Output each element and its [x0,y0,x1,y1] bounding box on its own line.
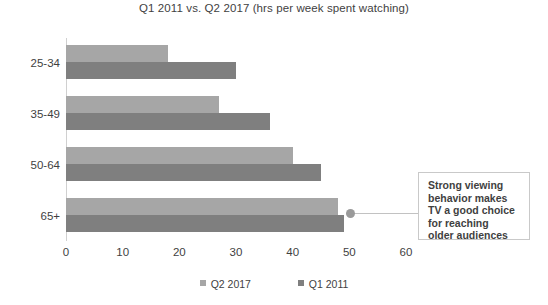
chart-legend: Q2 2017 Q1 2011 [0,277,548,290]
bar-q1-2011-65-plus[interactable] [66,215,344,232]
annotation-line-4: for reaching [428,217,522,230]
callout-anchor-dot [346,209,355,218]
x-tick-10: 10 [103,246,143,258]
bar-group-25-34 [66,45,406,79]
category-label-35-49: 35-49 [8,108,60,120]
legend-swatch-icon-q1-2011 [298,280,304,286]
bar-q1-2011-50-64[interactable] [66,164,321,181]
bar-q1-2011-25-34[interactable] [66,62,236,79]
annotation-line-2: behavior makes [428,192,522,205]
bar-q2-2017-65-plus[interactable] [66,198,338,215]
chart-title: Q1 2011 vs. Q2 2017 (hrs per week spent … [0,2,548,14]
bar-group-50-64 [66,147,406,181]
legend-swatch-icon-q2-2017 [200,280,206,286]
bar-q1-2011-35-49[interactable] [66,113,270,130]
bar-q2-2017-35-49[interactable] [66,96,219,113]
annotation-callout: Strong viewing behavior makes TV a good … [418,172,530,240]
bar-group-35-49 [66,96,406,130]
category-label-50-64: 50-64 [8,159,60,171]
legend-item-q2-2017[interactable]: Q2 2017 [200,277,251,290]
legend-label-q1-2011: Q1 2011 [309,278,349,290]
category-label-65-plus: 65+ [8,210,60,222]
annotation-line-1: Strong viewing [428,179,522,192]
legend-label-q2-2017: Q2 2017 [211,278,251,290]
category-label-25-34: 25-34 [8,57,60,69]
legend-item-q1-2011[interactable]: Q1 2011 [298,277,349,290]
bar-q2-2017-50-64[interactable] [66,147,293,164]
bar-q2-2017-25-34[interactable] [66,45,168,62]
x-tick-30: 30 [216,246,256,258]
callout-connector-line [353,213,419,214]
annotation-line-5: older audiences [428,229,522,242]
x-tick-0: 0 [46,246,86,258]
x-tick-40: 40 [273,246,313,258]
annotation-line-3: TV a good choice [428,204,522,217]
bar-group-65-plus [66,198,406,232]
x-tick-50: 50 [329,246,369,258]
chart-container: Q1 2011 vs. Q2 2017 (hrs per week spent … [0,0,548,305]
x-tick-20: 20 [159,246,199,258]
x-tick-60: 60 [386,246,426,258]
plot-area [66,38,406,241]
